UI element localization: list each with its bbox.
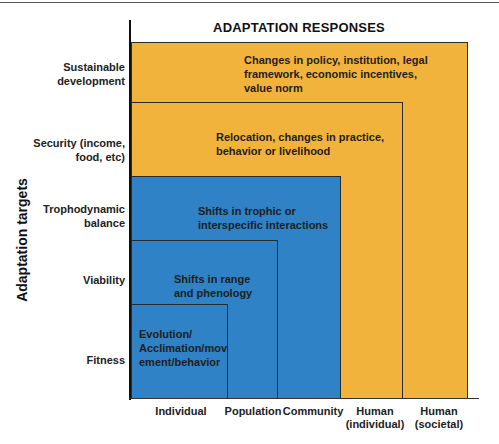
y-label-trophodynamic: Trophodynamic balance — [43, 202, 125, 230]
box-text-sustainable-development: Changes in policy, institution, legal fr… — [244, 53, 428, 95]
x-axis-line — [129, 398, 479, 399]
box-text-trophodynamic: Shifts in trophic or interspecific inter… — [198, 204, 328, 232]
top-rule — [0, 2, 499, 3]
diagram-title: ADAPTATION RESPONSES — [131, 20, 467, 35]
y-label-fitness: Fitness — [86, 353, 125, 367]
x-label-human-societal: Human (societal) — [404, 405, 474, 431]
x-label-human-individual: Human (individual) — [340, 405, 410, 431]
x-label-population: Population — [220, 405, 286, 418]
y-axis-line — [129, 20, 131, 400]
box-text-security: Relocation, changes in practice, behavio… — [216, 130, 384, 158]
y-label-viability: Viability — [83, 273, 125, 287]
box-fitness: Evolution/ Acclimation/mov ement/behavio… — [131, 304, 228, 399]
y-axis-title: Adaptation targets — [14, 178, 30, 302]
x-label-community: Community — [280, 405, 346, 418]
y-label-security: Security (income, food, etc) — [33, 136, 125, 164]
y-label-sustainable-development: Sustainable development — [57, 60, 125, 88]
box-text-fitness: Evolution/ Acclimation/mov ement/behavio… — [139, 327, 227, 369]
box-text-viability: Shifts in range and phenology — [174, 272, 252, 300]
x-label-individual: Individual — [146, 405, 216, 418]
